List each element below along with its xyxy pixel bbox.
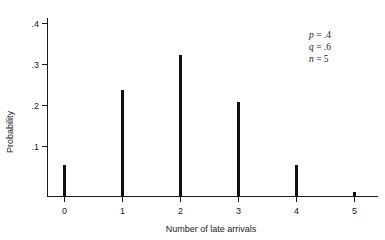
- data-series-stems: [65, 55, 355, 197]
- x-tick-label: 1: [120, 206, 125, 216]
- binomial-distribution-figure: .4 .3 .2 .1 Probability 0 1 2 3 4 5 Numb…: [0, 0, 385, 240]
- y-axis-tick-labels: .4 .3 .2 .1: [31, 19, 39, 152]
- annotation-line-q: q = .6: [309, 42, 331, 52]
- y-axis-ticks: [42, 24, 48, 147]
- annotation-value-p: .4: [324, 30, 331, 40]
- annotation-value-q: .6: [324, 42, 331, 52]
- x-tick-label: 0: [62, 206, 67, 216]
- y-tick-label: .2: [31, 101, 39, 111]
- annotation-equals-q: =: [314, 42, 324, 52]
- y-tick-label: .4: [31, 19, 39, 29]
- x-axis-title: Number of late arrivals: [166, 224, 257, 234]
- annotation-equals-p: =: [314, 30, 324, 40]
- annotation-line-p: p = .4: [308, 30, 331, 40]
- x-tick-label: 3: [236, 206, 241, 216]
- y-tick-label: .3: [31, 60, 39, 70]
- x-tick-label: 5: [352, 206, 357, 216]
- parameter-annotation: p = .4 q = .6 n = 5: [308, 30, 331, 64]
- y-tick-label: .1: [31, 142, 39, 152]
- x-tick-label: 4: [294, 206, 299, 216]
- annotation-line-n: n = 5: [309, 54, 329, 64]
- annotation-value-n: 5: [324, 54, 329, 64]
- x-tick-label: 2: [178, 206, 183, 216]
- annotation-equals-n: =: [314, 54, 324, 64]
- x-axis-ticks: [65, 197, 355, 203]
- chart-canvas: .4 .3 .2 .1 Probability 0 1 2 3 4 5 Numb…: [0, 0, 385, 240]
- x-axis-tick-labels: 0 1 2 3 4 5: [62, 206, 357, 216]
- y-axis-title: Probability: [5, 110, 15, 153]
